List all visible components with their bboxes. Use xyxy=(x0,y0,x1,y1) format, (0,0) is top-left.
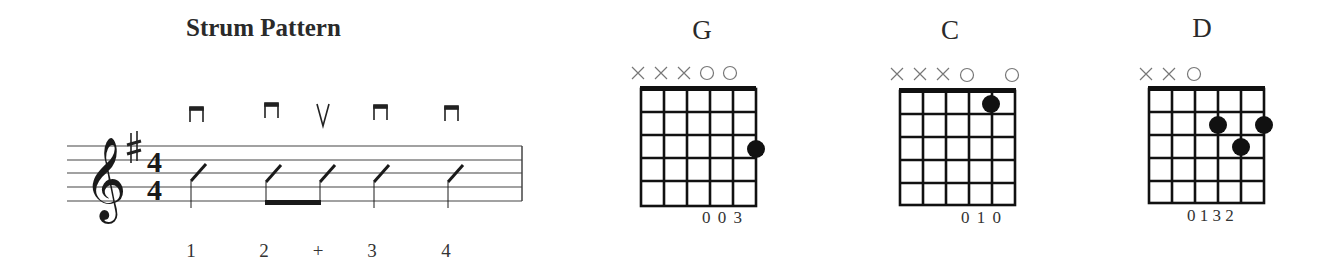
chord-name-g: G xyxy=(672,15,732,46)
beat-count: 3 xyxy=(362,240,382,262)
sharp-icon xyxy=(127,131,141,163)
down-stroke-icon xyxy=(445,106,458,121)
down-stroke-icon xyxy=(190,107,203,122)
treble-clef-icon: 𝄞 xyxy=(84,136,127,224)
time-signature: 4 4 xyxy=(147,145,162,206)
beat-count: 1 xyxy=(181,240,201,262)
string-markers xyxy=(632,67,737,80)
chord-diagram-g xyxy=(632,67,765,207)
string-markers xyxy=(1140,68,1201,81)
finger-dot xyxy=(1255,116,1273,134)
up-stroke-icon xyxy=(317,104,329,126)
fingering-d: 0 1 3 2 xyxy=(1187,206,1234,226)
fingering-g: 0 0 3 xyxy=(702,208,742,228)
eighth-beam xyxy=(265,200,321,205)
finger-dot xyxy=(982,95,1000,113)
chord-name-d: D xyxy=(1172,13,1232,44)
strum-direction-symbols xyxy=(190,103,458,126)
svg-text:𝄞: 𝄞 xyxy=(84,136,127,224)
chord-diagram-c xyxy=(891,68,1019,205)
beat-count: 2 xyxy=(254,240,274,262)
finger-dot xyxy=(1209,116,1227,134)
fingering-c: 0 1 0 xyxy=(961,208,1001,228)
notation-canvas: 𝄞 4 4 xyxy=(0,0,1341,264)
beat-count: 4 xyxy=(436,240,456,262)
down-stroke-icon xyxy=(374,105,387,120)
finger-dot xyxy=(747,140,765,158)
svg-text:4: 4 xyxy=(147,173,162,206)
beat-count: + xyxy=(308,240,328,262)
string-markers xyxy=(891,68,1019,82)
chord-diagram-d xyxy=(1140,68,1273,204)
down-stroke-icon xyxy=(265,103,278,118)
chord-name-c: C xyxy=(920,15,980,46)
finger-dot xyxy=(1232,138,1250,156)
